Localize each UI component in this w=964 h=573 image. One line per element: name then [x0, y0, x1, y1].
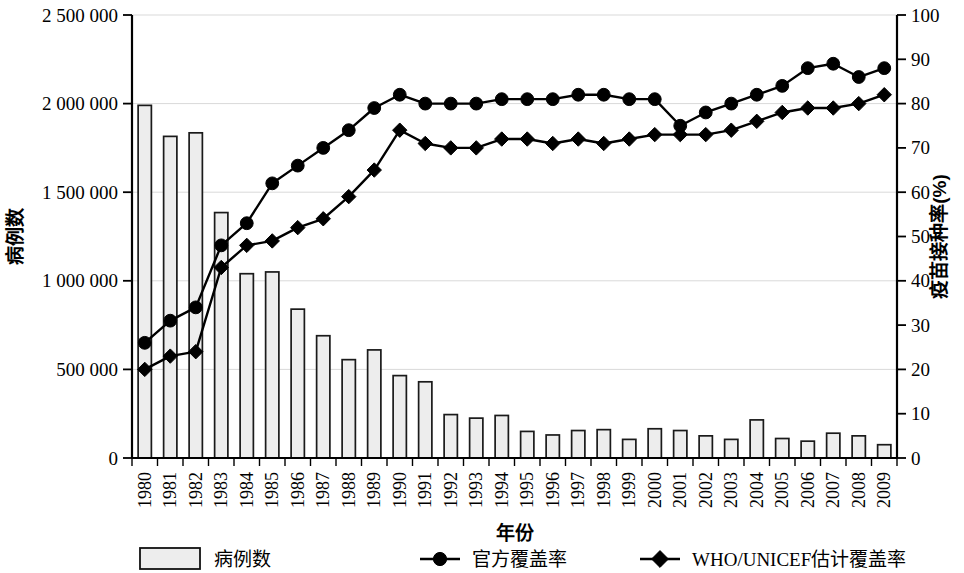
- bar-1997: [572, 431, 585, 458]
- y-tick-label-right-2: 20: [911, 359, 930, 380]
- marker-official-1982: [189, 301, 202, 314]
- legend-item-who-unicef[interactable]: WHO/UNICEF估计覆盖率: [640, 549, 906, 570]
- x-tick-label-2003: 2003: [721, 472, 741, 508]
- legend-marker-circle-icon: [433, 552, 446, 565]
- legend-marker-diamond-icon: [652, 551, 669, 568]
- bar-1999: [623, 439, 636, 458]
- marker-official-1988: [342, 124, 355, 137]
- bar-1985: [266, 272, 279, 458]
- y-tick-label-right-8: 80: [911, 93, 930, 114]
- x-tick-label-2002: 2002: [696, 472, 716, 508]
- x-tick-label-2005: 2005: [772, 472, 792, 508]
- marker-who-unicef-1999: [622, 132, 636, 146]
- x-axis-title: 年份: [496, 522, 535, 544]
- marker-who-unicef-1991: [418, 136, 432, 150]
- legend-item-official[interactable]: 官方覆盖率: [420, 549, 567, 570]
- bar-1988: [342, 360, 355, 458]
- marker-official-1993: [470, 97, 483, 110]
- marker-who-unicef-2007: [826, 101, 840, 115]
- bar-2000: [648, 429, 661, 458]
- marker-official-1985: [266, 177, 279, 190]
- marker-official-1994: [495, 93, 508, 106]
- x-tick-label-2001: 2001: [670, 472, 690, 508]
- bar-2002: [699, 436, 712, 458]
- x-tick-label-1999: 1999: [619, 472, 639, 508]
- legend-label: WHO/UNICEF估计覆盖率: [692, 549, 906, 570]
- gridlines: 0500 0001 000 0001 500 0002 000 0002 500…: [4, 5, 950, 571]
- bar-1980: [138, 105, 151, 458]
- x-tick-label-1990: 1990: [390, 472, 410, 508]
- x-tick-label-1987: 1987: [313, 472, 333, 508]
- marker-who-unicef-1992: [444, 141, 458, 155]
- bar-2007: [827, 433, 840, 458]
- marker-official-1992: [444, 97, 457, 110]
- y-tick-label-left-4: 2 000 000: [42, 93, 118, 114]
- x-tick-label-2007: 2007: [823, 472, 843, 508]
- marker-official-2002: [699, 106, 712, 119]
- marker-who-unicef-2000: [648, 127, 662, 141]
- marker-official-1997: [572, 88, 585, 101]
- marker-official-2007: [827, 57, 840, 70]
- marker-official-1989: [368, 102, 381, 115]
- marker-official-1987: [317, 142, 330, 155]
- x-tick-label-1989: 1989: [364, 472, 384, 508]
- x-tick-label-2009: 2009: [874, 472, 894, 508]
- y-tick-label-left-2: 1 000 000: [42, 270, 118, 291]
- marker-who-unicef-2008: [852, 96, 866, 110]
- x-tick-label-1985: 1985: [262, 472, 282, 508]
- bar-2008: [852, 436, 865, 458]
- legend-item-cases[interactable]: 病例数: [140, 548, 271, 570]
- legend-label: 官方覆盖率: [472, 549, 567, 570]
- marker-who-unicef-2004: [750, 114, 764, 128]
- marker-official-2006: [801, 62, 814, 75]
- bar-1989: [368, 350, 381, 458]
- marker-who-unicef-1995: [520, 132, 534, 146]
- marker-official-1983: [215, 239, 228, 252]
- bar-1984: [240, 274, 253, 458]
- x-tick-label-2004: 2004: [747, 472, 767, 508]
- bar-2001: [674, 431, 687, 458]
- bar-1981: [164, 136, 177, 458]
- bar-1992: [444, 415, 457, 458]
- x-tick-label-1986: 1986: [288, 472, 308, 508]
- marker-official-1991: [419, 97, 432, 110]
- x-tick-label-2000: 2000: [645, 472, 665, 508]
- y-tick-label-right-9: 90: [911, 49, 930, 70]
- marker-official-1984: [240, 217, 253, 230]
- y-axis-title-right: 疫苗接种率(%): [928, 174, 950, 299]
- marker-official-2004: [750, 88, 763, 101]
- bar-2004: [750, 420, 763, 458]
- marker-who-unicef-1996: [546, 136, 560, 150]
- marker-who-unicef-1994: [495, 132, 509, 146]
- x-tick-label-1996: 1996: [543, 472, 563, 508]
- y-tick-label-right-4: 40: [911, 270, 930, 291]
- marker-who-unicef-2006: [801, 101, 815, 115]
- vaccination-cases-chart: 0500 0001 000 0001 500 0002 000 0002 500…: [0, 0, 964, 573]
- y-tick-label-left-3: 1 500 000: [42, 182, 118, 203]
- y-tick-label-right-7: 70: [911, 137, 930, 158]
- x-tick-label-1980: 1980: [135, 472, 155, 508]
- bar-1993: [470, 418, 483, 458]
- y-axis-title-left: 病例数: [4, 207, 26, 265]
- x-tick-label-2008: 2008: [849, 472, 869, 508]
- marker-who-unicef-1985: [265, 234, 279, 248]
- y-tick-label-left-5: 2 500 000: [42, 5, 118, 26]
- marker-who-unicef-2005: [775, 105, 789, 119]
- bar-1986: [291, 309, 304, 458]
- x-tick-label-1988: 1988: [339, 472, 359, 508]
- x-tick-label-1983: 1983: [211, 472, 231, 508]
- legend: 病例数: [140, 548, 271, 570]
- marker-official-2005: [776, 79, 789, 92]
- x-tick-label-1984: 1984: [237, 472, 257, 508]
- y-tick-label-right-0: 0: [911, 448, 921, 469]
- marker-who-unicef-1998: [597, 136, 611, 150]
- x-tick-label-1991: 1991: [415, 472, 435, 508]
- marker-who-unicef-1990: [393, 123, 407, 137]
- marker-who-unicef-2009: [877, 88, 891, 102]
- x-tick-label-1997: 1997: [568, 472, 588, 508]
- x-tick-label-1993: 1993: [466, 472, 486, 508]
- x-tick-label-1992: 1992: [441, 472, 461, 508]
- marker-official-1999: [623, 93, 636, 106]
- bar-1990: [393, 376, 406, 458]
- legend-label: 病例数: [214, 549, 271, 570]
